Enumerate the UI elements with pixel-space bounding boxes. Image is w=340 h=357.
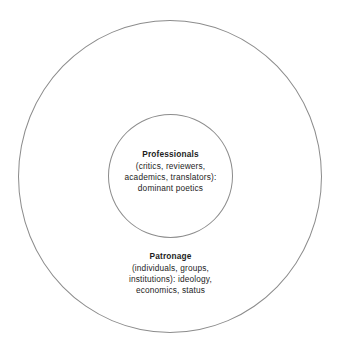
- patronage-label-group: Patronage (individuals, groups, institut…: [98, 251, 243, 296]
- professionals-title: Professionals: [108, 149, 233, 161]
- professionals-line-1: (critics, reviewers,: [108, 161, 233, 172]
- patronage-title: Patronage: [98, 251, 243, 263]
- patronage-line-2: institutions): ideology,: [98, 274, 243, 285]
- professionals-label-group: Professionals (critics, reviewers, acade…: [108, 149, 233, 194]
- diagram-canvas: Professionals (critics, reviewers, acade…: [0, 0, 340, 357]
- professionals-line-3: dominant poetics: [108, 183, 233, 194]
- professionals-line-2: academics, translators):: [108, 172, 233, 183]
- patronage-line-1: (individuals, groups,: [98, 263, 243, 274]
- patronage-line-3: economics, status: [98, 285, 243, 296]
